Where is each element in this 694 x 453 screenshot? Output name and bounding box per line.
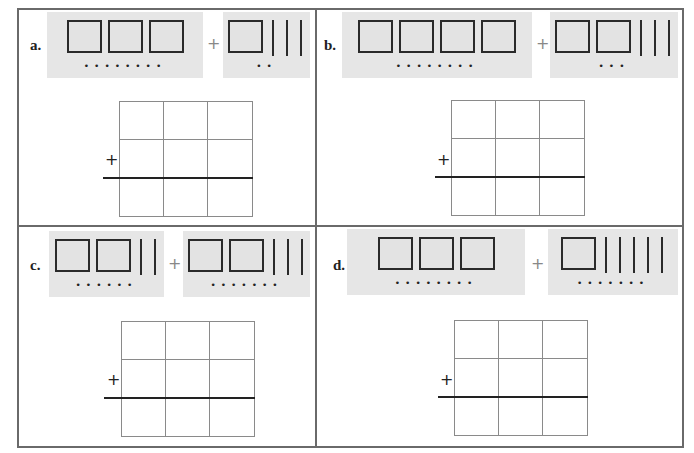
addend-1-blocks: •••••••• <box>342 12 532 78</box>
answer-cell[interactable] <box>496 139 540 177</box>
hundred-flat-icon <box>188 239 223 272</box>
answer-cell[interactable] <box>543 321 587 359</box>
answer-cell[interactable] <box>496 177 540 215</box>
ten-rod-icon <box>661 237 663 273</box>
answer-cell[interactable] <box>210 322 254 360</box>
hundred-flat-icon <box>96 239 131 272</box>
answer-cell[interactable] <box>540 139 584 177</box>
grid-plus-sign: + <box>437 150 450 169</box>
ones-dots: ••••••• <box>183 281 310 289</box>
ones-dots: •••••••• <box>342 62 532 70</box>
ten-rod-icon <box>605 237 607 273</box>
plus-operator: + <box>207 34 220 53</box>
hundred-flat-icon <box>440 20 475 53</box>
answer-cell[interactable] <box>499 359 543 397</box>
hundred-flat-icon <box>108 20 143 53</box>
answer-cell[interactable] <box>452 101 496 139</box>
answer-cell[interactable] <box>208 102 252 140</box>
ones-dots: •••••••• <box>47 62 203 70</box>
answer-cell[interactable] <box>166 360 210 398</box>
answer-cell[interactable] <box>543 397 587 435</box>
hundred-flat-icon <box>460 237 495 270</box>
ten-rod-icon <box>647 237 649 273</box>
plus-operator: + <box>531 254 544 273</box>
answer-cell[interactable] <box>166 398 210 436</box>
problem-label: c. <box>30 257 40 274</box>
base-ten-blocks <box>347 237 525 270</box>
hundred-flat-icon <box>67 20 102 53</box>
addend-1-blocks: •••••••• <box>47 12 203 78</box>
answer-cell[interactable] <box>455 321 499 359</box>
ten-rod-icon <box>300 20 302 56</box>
base-ten-blocks <box>223 20 310 56</box>
ones-dots: •••••• <box>49 281 164 289</box>
answer-cell[interactable] <box>455 397 499 435</box>
hundred-flat-icon <box>149 20 184 53</box>
answer-grid <box>119 101 253 217</box>
answer-cell[interactable] <box>122 322 166 360</box>
addend-1-blocks: •••••••• <box>347 229 525 295</box>
ten-rod-icon <box>301 239 303 275</box>
sum-line <box>435 176 585 178</box>
horizontal-divider <box>17 225 682 227</box>
answer-cell[interactable] <box>122 398 166 436</box>
sum-line <box>104 397 255 399</box>
answer-cell[interactable] <box>455 359 499 397</box>
ten-rod-icon <box>619 237 621 273</box>
sum-line <box>438 396 588 398</box>
answer-cell[interactable] <box>208 178 252 216</box>
answer-cell[interactable] <box>499 397 543 435</box>
answer-cell[interactable] <box>120 178 164 216</box>
addend-2-blocks: ••• <box>550 12 678 78</box>
answer-cell[interactable] <box>543 359 587 397</box>
ten-rod-icon <box>640 20 642 56</box>
answer-cell[interactable] <box>210 398 254 436</box>
answer-cell[interactable] <box>540 177 584 215</box>
hundred-flat-icon <box>561 237 596 270</box>
answer-cell[interactable] <box>540 101 584 139</box>
vertical-divider <box>315 8 317 446</box>
ten-rod-icon <box>668 20 670 56</box>
ten-rod-icon <box>154 239 156 275</box>
answer-grid <box>451 100 585 216</box>
answer-cell[interactable] <box>122 360 166 398</box>
hundred-flat-icon <box>481 20 516 53</box>
hundred-flat-icon <box>555 20 590 53</box>
answer-cell[interactable] <box>164 178 208 216</box>
answer-cell[interactable] <box>496 101 540 139</box>
hundred-flat-icon <box>229 239 264 272</box>
hundred-flat-icon <box>358 20 393 53</box>
base-ten-blocks <box>47 20 203 53</box>
plus-operator: + <box>536 34 549 53</box>
answer-cell[interactable] <box>208 140 252 178</box>
base-ten-blocks <box>550 20 678 56</box>
ones-dots: ••• <box>550 62 678 70</box>
ones-dots: ••••••• <box>548 279 678 287</box>
ten-rod-icon <box>273 239 275 275</box>
answer-grid <box>454 320 588 436</box>
addend-1-blocks: •••••• <box>49 231 164 297</box>
answer-cell[interactable] <box>120 102 164 140</box>
answer-cell[interactable] <box>499 321 543 359</box>
hundred-flat-icon <box>228 20 263 53</box>
answer-cell[interactable] <box>452 177 496 215</box>
sum-line <box>103 177 253 179</box>
answer-cell[interactable] <box>452 139 496 177</box>
answer-cell[interactable] <box>164 102 208 140</box>
addend-2-blocks: •• <box>223 12 310 78</box>
ten-rod-icon <box>286 20 288 56</box>
hundred-flat-icon <box>399 20 434 53</box>
answer-grid <box>121 321 255 437</box>
grid-plus-sign: + <box>440 370 453 389</box>
answer-cell[interactable] <box>120 140 164 178</box>
plus-operator: + <box>168 254 181 273</box>
answer-cell[interactable] <box>164 140 208 178</box>
hundred-flat-icon <box>419 237 454 270</box>
problem-label: b. <box>324 37 336 54</box>
problem-label: d. <box>333 257 345 274</box>
answer-cell[interactable] <box>166 322 210 360</box>
base-ten-blocks <box>548 237 678 273</box>
grid-plus-sign: + <box>107 370 120 389</box>
hundred-flat-icon <box>596 20 631 53</box>
answer-cell[interactable] <box>210 360 254 398</box>
